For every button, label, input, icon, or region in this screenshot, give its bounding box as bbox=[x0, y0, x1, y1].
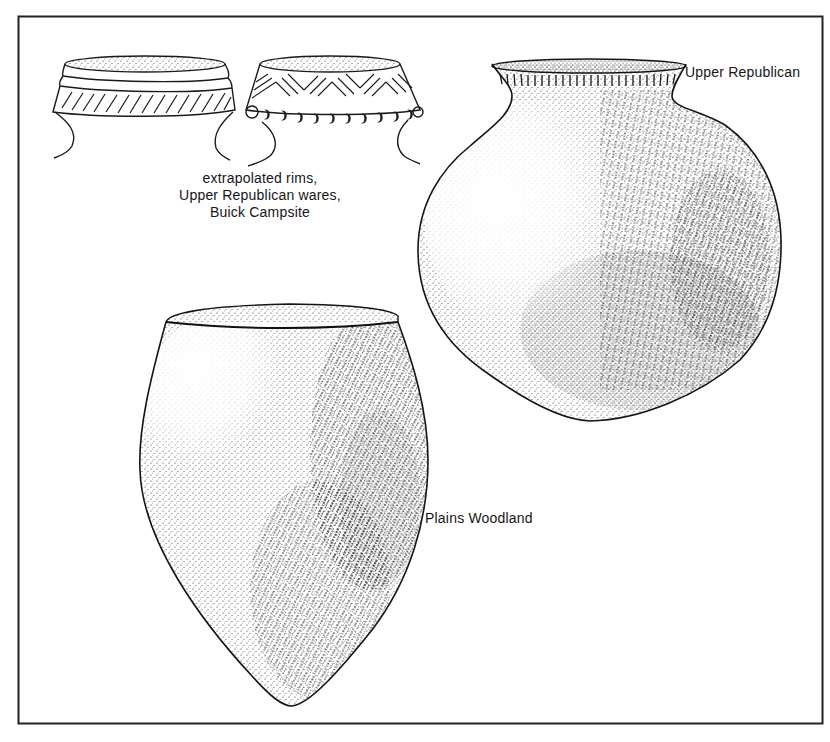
rim-sherd-1 bbox=[53, 56, 235, 160]
plains-woodland-label: Plains Woodland bbox=[425, 510, 533, 527]
plains-woodland-vessel bbox=[130, 300, 440, 710]
upper-republican-label: Upper Republican bbox=[685, 64, 800, 81]
caption-line-1: extrapolated rims, bbox=[140, 170, 380, 187]
rim-sherd-2 bbox=[246, 56, 423, 166]
rim-sherds-caption: extrapolated rims, Upper Republican ware… bbox=[140, 170, 380, 221]
upper-republican-jar bbox=[410, 55, 790, 425]
plate-drawing bbox=[0, 0, 830, 742]
illustration-plate: extrapolated rims, Upper Republican ware… bbox=[0, 0, 830, 742]
caption-line-3: Buick Campsite bbox=[140, 204, 380, 221]
caption-line-2: Upper Republican wares, bbox=[140, 187, 380, 204]
